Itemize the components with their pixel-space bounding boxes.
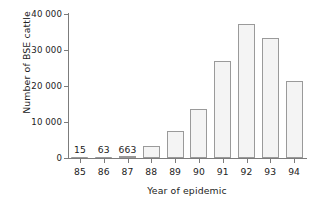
x-axis-tick-label-89: 89 — [163, 166, 187, 177]
y-axis-tick — [64, 122, 68, 123]
bar-91 — [214, 61, 231, 158]
x-axis-tick — [80, 159, 81, 163]
bar-90 — [190, 109, 207, 158]
x-axis-tick — [128, 159, 129, 163]
x-axis-tick — [223, 159, 224, 163]
x-axis-tick-label-93: 93 — [258, 166, 282, 177]
y-axis-tick-label: 20 000 — [2, 81, 62, 91]
x-axis-tick-label-92: 92 — [235, 166, 259, 177]
x-axis-tick-label-86: 86 — [92, 166, 116, 177]
x-axis-tick — [151, 159, 152, 163]
x-axis-tick — [199, 159, 200, 163]
bar-value-label-87: 663 — [108, 144, 148, 155]
bar-93 — [262, 38, 279, 158]
y-axis-tick-label: 0 — [2, 153, 62, 163]
bar-92 — [238, 24, 255, 158]
x-axis-tick — [247, 159, 248, 163]
x-axis-title: Year of epidemic — [68, 185, 306, 196]
x-axis-tick-label-87: 87 — [116, 166, 140, 177]
x-axis-tick — [175, 159, 176, 163]
y-axis-tick-label: 10 000 — [2, 117, 62, 127]
bar-88 — [143, 146, 160, 158]
y-axis-tick-label: 40 000 — [2, 9, 62, 19]
x-axis-tick — [294, 159, 295, 163]
y-axis-tick — [64, 86, 68, 87]
y-axis-tick — [64, 50, 68, 51]
bar-89 — [167, 131, 184, 158]
x-axis-tick-label-85: 85 — [68, 166, 92, 177]
y-axis-tick-label: 30 000 — [2, 45, 62, 55]
x-axis-tick-label-90: 90 — [187, 166, 211, 177]
bar-87 — [119, 156, 136, 158]
x-axis-tick-label-91: 91 — [211, 166, 235, 177]
x-axis-tick-label-94: 94 — [282, 166, 306, 177]
y-axis-tick — [64, 158, 68, 159]
bar-85 — [71, 157, 88, 158]
bse-epidemic-bar-chart: Number of BSE cattle Year of epidemic 01… — [0, 0, 312, 208]
y-axis-tick — [64, 14, 68, 15]
y-axis-line — [68, 13, 69, 159]
bar-94 — [286, 81, 303, 158]
bar-86 — [95, 157, 112, 158]
x-axis-tick — [104, 159, 105, 163]
x-axis-tick-label-88: 88 — [139, 166, 163, 177]
x-axis-tick — [270, 159, 271, 163]
